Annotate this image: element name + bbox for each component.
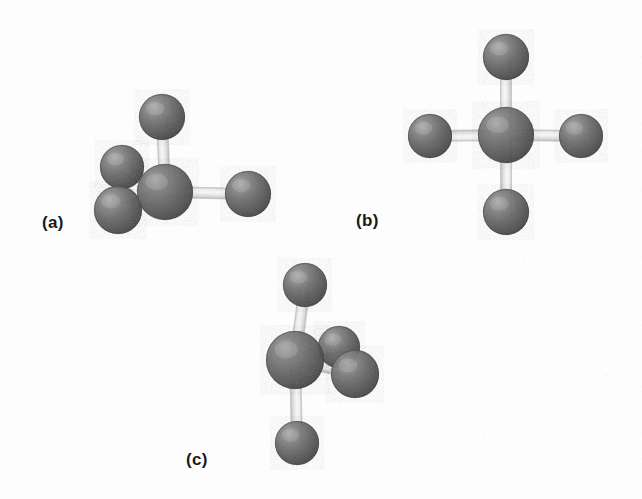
panel-label-b: (b) [356,211,379,231]
atom-a-right [225,171,271,217]
atom-c-right-lower [331,350,379,398]
atom-b-bottom [483,189,529,235]
atom-layer [94,34,603,465]
atom-c-central [266,331,324,389]
molecular-geometry-figure: (a) (b) (c) [0,0,642,499]
atom-b-left [408,114,452,158]
atom-b-right [559,114,603,158]
atom-c-bottom [275,421,319,465]
molecule-canvas [0,0,642,499]
panel-label-a: (a) [42,213,64,233]
atom-a-upper-left [100,145,144,189]
atom-a-top [139,94,185,140]
atom-b-central [478,107,534,163]
panel-label-c: (c) [186,450,208,470]
atom-c-top [283,263,327,307]
atom-b-top [483,34,529,80]
atom-a-lower-left [94,186,142,234]
atom-a-central [137,164,193,220]
